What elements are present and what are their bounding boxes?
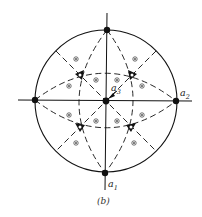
stereogram-diagram: a3 a2 a1 (b) <box>0 0 202 217</box>
label-a2: a2 <box>180 87 190 101</box>
pole-bottom <box>102 170 108 176</box>
label-a1: a1 <box>108 178 118 192</box>
figure-caption: (b) <box>97 196 110 206</box>
pole-left <box>32 97 38 103</box>
label-a3: a3 <box>111 82 121 96</box>
pole-right <box>173 98 179 104</box>
pole-top <box>104 27 110 33</box>
